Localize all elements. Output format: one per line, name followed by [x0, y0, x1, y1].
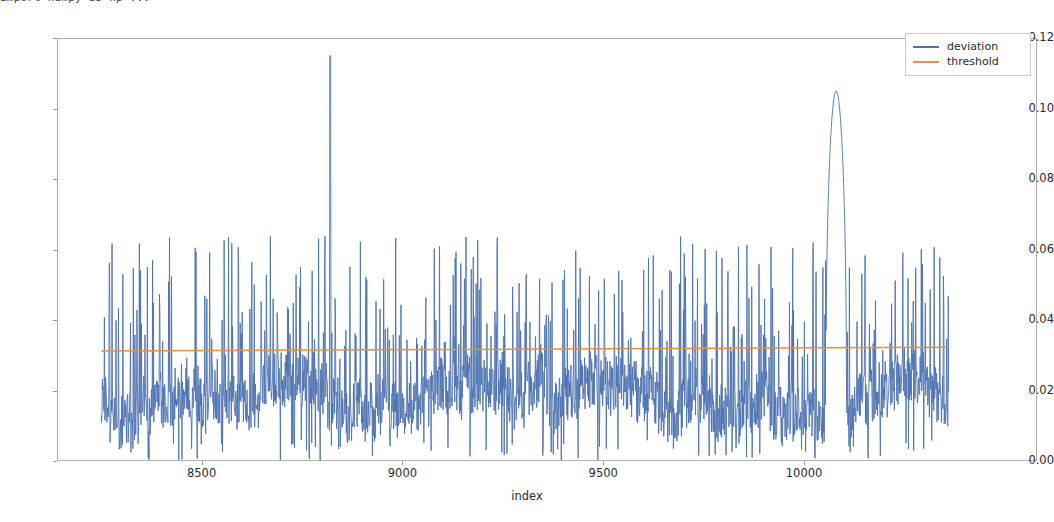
- x-tick-mark: [402, 461, 403, 465]
- x-tick-label: 9000: [388, 468, 417, 480]
- chart-legend: deviation threshold: [905, 33, 1031, 76]
- x-axis-label: index: [0, 489, 1054, 503]
- x-tick-label: 9500: [589, 468, 618, 480]
- x-tick-label: 10000: [786, 468, 823, 480]
- legend-swatch-threshold: [913, 61, 939, 63]
- x-tick-mark: [202, 461, 203, 465]
- x-axis-ticks: 85009000950010000: [0, 0, 1054, 522]
- legend-item-threshold: threshold: [913, 54, 1023, 69]
- x-tick-label: 8500: [187, 468, 216, 480]
- legend-label-threshold: threshold: [947, 56, 999, 67]
- legend-swatch-deviation: [913, 46, 939, 48]
- x-tick-mark: [603, 461, 604, 465]
- legend-item-deviation: deviation: [913, 39, 1023, 54]
- x-tick-mark: [804, 461, 805, 465]
- legend-label-deviation: deviation: [947, 41, 998, 52]
- matplotlib-figure: import numpy as np ... 0.000.020.040.060…: [0, 0, 1054, 522]
